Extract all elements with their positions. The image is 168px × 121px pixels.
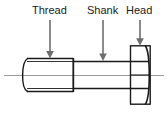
shank-leader-arrow xyxy=(99,20,107,61)
thread-leader-arrow xyxy=(46,20,54,59)
label-head: Head xyxy=(126,4,152,17)
bolt-diagram: Thread Shank Head xyxy=(0,0,168,121)
bolt-drawing-svg xyxy=(0,0,168,121)
label-shank: Shank xyxy=(87,4,118,17)
head-leader-arrow xyxy=(136,20,144,46)
label-thread: Thread xyxy=(32,4,67,17)
